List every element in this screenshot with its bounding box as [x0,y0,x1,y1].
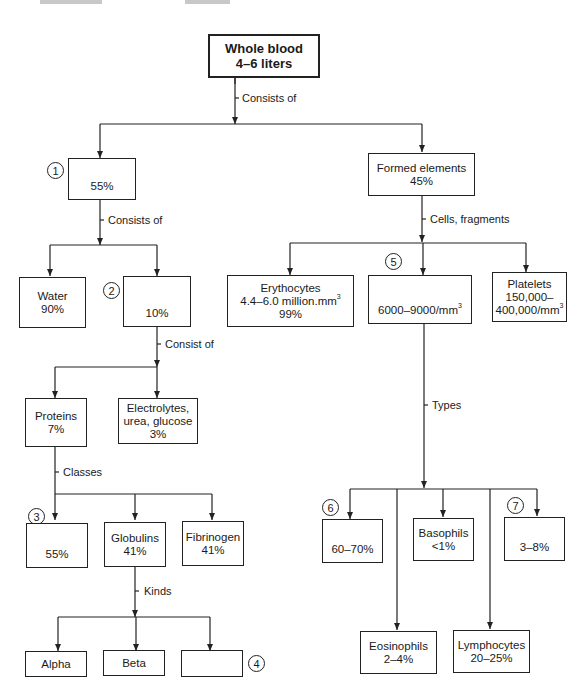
node-blank-7: 3–8% [504,517,565,561]
edge-label: Types [432,399,461,411]
connector-lines [0,0,586,696]
node-value: 4–6 liters [236,56,292,71]
node-label: Electrolytes, [127,402,190,415]
node-value: 41% [123,545,146,558]
node-label: Water [37,290,67,303]
node-value: 20–25% [470,652,512,665]
node-label: Erythocytes [260,282,320,295]
node-formed-elements: Formed elements 45% [368,153,475,196]
edge-label: Cells, fragments [430,213,509,225]
marker-number: 6 [327,502,333,514]
node-blank-2: 10% [123,276,191,327]
node-fibrinogen: Fibrinogen 41% [182,521,244,566]
count-text: 400,000/mm [496,304,560,316]
node-value: 60–70% [331,543,373,556]
blank-marker-1: 1 [47,162,64,179]
node-value: 55% [90,180,113,193]
edge-label: Consist of [165,338,214,350]
node-alpha: Alpha [25,651,87,677]
node-basophils: Basophils <1% [413,518,474,561]
node-value: 55% [45,548,68,561]
node-value: 3–8% [520,541,549,554]
node-value: 6000–9000/mm3 [378,304,462,317]
node-value: 41% [201,544,224,557]
node-water: Water 90% [19,277,86,328]
node-value: 45% [410,175,433,188]
node-value: 99% [279,308,302,321]
node-value: 2–4% [384,653,413,666]
blank-marker-2: 2 [103,282,120,299]
node-whole-blood: Whole blood 4–6 liters [208,34,320,78]
marker-number: 4 [253,658,259,670]
superscript: 3 [458,302,462,309]
node-label: Eosinophils [369,640,428,653]
node-eosinophils: Eosinophils 2–4% [360,631,437,674]
node-count: 150,000– [506,291,554,304]
count-text: 4.4–6.0 million.mm [240,295,337,307]
marker-number: 1 [52,165,58,177]
node-globulins: Globulins 41% [104,522,166,567]
node-lymphocytes: Lymphocytes 20–25% [453,630,530,673]
edge-label: Consists of [108,214,162,226]
node-label: Globulins [111,532,159,545]
marker-number: 7 [512,500,518,512]
blank-marker-7: 7 [507,497,524,514]
superscript: 3 [560,302,564,309]
node-label: Lymphocytes [458,639,525,652]
node-value: <1% [432,540,455,553]
node-blank-1: 55% [68,158,136,200]
node-value: 90% [41,303,64,316]
node-value: 10% [145,307,168,320]
node-label: Basophils [419,527,469,540]
blank-marker-5: 5 [385,253,402,270]
node-label: Proteins [35,410,77,423]
node-label: Fibrinogen [186,531,240,544]
node-beta: Beta [103,650,165,676]
node-blank-3: 55% [26,523,88,568]
node-value: 7% [48,423,65,436]
node-label: Platelets [507,278,551,291]
edge-label: Consists of [242,92,296,104]
node-count-2: 400,000/mm3 [496,304,564,317]
node-label: Alpha [41,658,70,671]
marker-number: 3 [33,511,39,523]
node-erythrocytes: Erythocytes 4.4–6.0 million.mm3 99% [227,275,354,327]
node-platelets: Platelets 150,000– 400,000/mm3 [492,272,567,322]
node-blank-4 [181,650,243,677]
marker-number: 2 [108,285,114,297]
node-count: 4.4–6.0 million.mm3 [240,295,340,308]
node-label: Whole blood [225,41,303,56]
count-text: 6000–9000/mm [378,304,458,316]
node-proteins: Proteins 7% [25,398,87,447]
edge-label: Kinds [144,585,172,597]
blank-marker-6: 6 [322,499,339,516]
node-label: Beta [122,657,146,670]
node-electrolytes: Electrolytes, urea, glucose 3% [118,398,198,444]
node-label-2: urea, glucose [123,415,192,428]
node-label: Formed elements [377,162,466,175]
marker-number: 5 [390,256,396,268]
superscript: 3 [337,293,341,300]
node-value: 3% [150,428,167,441]
node-blank-6: 60–70% [322,519,383,563]
edge-label: Classes [63,466,102,478]
node-blank-5: 6000–9000/mm3 [368,275,472,324]
blank-marker-4: 4 [248,655,265,672]
